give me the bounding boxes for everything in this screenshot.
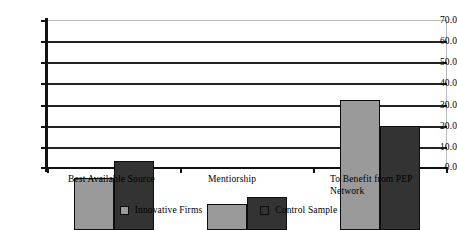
legend-swatch-icon-control-sample <box>260 206 269 215</box>
y-tick-30 <box>41 105 48 107</box>
y-axis-label-10: 10.0 <box>415 143 457 153</box>
x-tick-2 <box>313 168 315 173</box>
legend-entry-control-sample: Control Sample <box>260 205 337 215</box>
y-axis-label-30: 30.0 <box>415 101 457 111</box>
category-label-0: Best Available Source <box>68 174 188 186</box>
category-label-2-line1: To Benefit from PEP <box>330 174 445 186</box>
gridline-60 <box>47 41 447 43</box>
y-tick-20 <box>41 126 48 128</box>
y-axis-label-70: 70.0 <box>415 16 457 26</box>
category-label-1: Mentiorship <box>208 174 328 186</box>
y-tick-70 <box>41 20 48 22</box>
category-label-2: To Benefit from PEP Network <box>330 174 445 197</box>
y-tick-40 <box>41 83 48 85</box>
x-tick-3 <box>446 168 448 173</box>
legend-label-innovative-firms: Innovative Firms <box>135 205 203 215</box>
y-axis-label-50: 50.0 <box>415 58 457 68</box>
chart-legend: Innovative Firms Control Sample <box>0 205 457 215</box>
legend-label-control-sample: Control Sample <box>275 205 337 215</box>
y-axis-label-0: 0.0 <box>415 163 457 173</box>
x-tick-0 <box>47 168 49 173</box>
legend-entry-innovative-firms: Innovative Firms <box>120 205 203 215</box>
gridline-70 <box>47 20 447 21</box>
y-axis-label-60: 60.0 <box>415 37 457 47</box>
bar-chart: 70.0 60.0 50.0 40.0 30.0 20.0 10.0 0.0 B… <box>0 0 457 230</box>
y-tick-60 <box>41 41 48 43</box>
category-label-1-line1: Mentiorship <box>208 174 328 186</box>
x-tick-1 <box>180 168 182 173</box>
y-axis-label-40: 40.0 <box>415 79 457 89</box>
bar-control-sample-0 <box>114 161 154 230</box>
legend-swatch-icon-innovative-firms <box>120 206 129 215</box>
category-label-0-line1: Best Available Source <box>68 174 188 186</box>
category-label-2-line2: Network <box>330 186 445 198</box>
gridline-50 <box>47 62 447 64</box>
y-axis-label-20: 20.0 <box>415 122 457 132</box>
y-tick-10 <box>41 147 48 149</box>
y-tick-50 <box>41 62 48 64</box>
